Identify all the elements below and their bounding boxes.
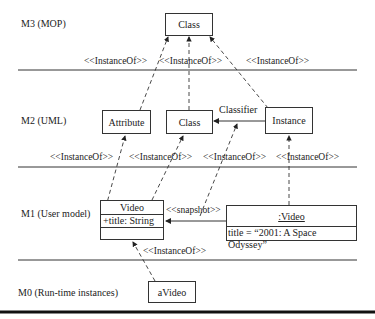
m3-class-box[interactable]: Class: [165, 13, 213, 36]
m2-instance-box[interactable]: Instance: [265, 107, 313, 134]
stereotype-instanceof: <<InstanceOf>>: [143, 246, 206, 256]
stereotype-instanceof: <<InstanceOf>>: [84, 56, 147, 66]
classifier-label: Classifier: [219, 104, 257, 115]
video-class-attribute: +title: String: [101, 215, 163, 228]
stereotype-instanceof: <<InstanceOf>>: [50, 152, 113, 162]
snapshot-label: <<snapshot>>: [166, 205, 221, 215]
stereotype-instanceof: <<InstanceOf>>: [129, 152, 192, 162]
level-label-m3: M3 (MOP): [21, 18, 66, 29]
stereotype-instanceof: <<InstanceOf>>: [159, 56, 222, 66]
m2-class-box[interactable]: Class: [166, 110, 213, 134]
video-class-operations: [101, 228, 163, 239]
stereotype-instanceof: <<InstanceOf>>: [276, 152, 339, 162]
video-instance-slot: title = “2001: A Space Odyssey”: [227, 227, 356, 240]
level-label-m0: M0 (Run-time instances): [18, 287, 118, 298]
level-label-m2: M2 (UML): [21, 115, 66, 126]
m2-attribute-box[interactable]: Attribute: [102, 110, 151, 134]
video-class-box[interactable]: Video +title: String: [100, 200, 164, 240]
video-class-name: Video: [101, 201, 163, 215]
level-label-m1: M1 (User model): [21, 208, 90, 219]
stereotype-instanceof: <<InstanceOf>>: [246, 56, 309, 66]
stereotype-instanceof: <<InstanceOf>>: [203, 152, 266, 162]
avideo-box[interactable]: aVideo: [148, 281, 196, 303]
video-instance-box[interactable]: :Video title = “2001: A Space Odyssey”: [226, 205, 357, 241]
video-instance-name: :Video: [227, 206, 356, 227]
